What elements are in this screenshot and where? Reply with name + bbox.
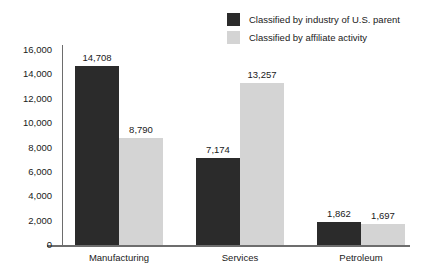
y-axis-tick-label: 10,000 xyxy=(4,118,52,128)
y-axis-tick-label: 8,000 xyxy=(4,143,52,153)
bar-chart: Classified by industry of U.S. parentCla… xyxy=(0,0,441,276)
bar-value-label: 1,697 xyxy=(353,210,413,221)
bar xyxy=(361,224,405,245)
bar xyxy=(119,138,163,245)
y-axis-tick-label: 12,000 xyxy=(4,94,52,104)
y-axis-tick-label: 4,000 xyxy=(4,191,52,201)
y-axis-tick-label: 0 xyxy=(4,240,52,250)
y-axis-tick-label: 6,000 xyxy=(4,167,52,177)
x-axis-category-label: Services xyxy=(170,252,310,264)
x-axis-line xyxy=(47,245,410,247)
bar-value-label: 8,790 xyxy=(111,124,171,135)
bar-value-label: 13,257 xyxy=(232,69,292,80)
bar xyxy=(75,66,119,245)
bar xyxy=(240,83,284,245)
y-axis-tick-label: 16,000 xyxy=(4,45,52,55)
y-axis-tick-label: 2,000 xyxy=(4,216,52,226)
x-axis-category-label: Manufacturing xyxy=(49,252,189,264)
bar-value-label: 7,174 xyxy=(188,144,248,155)
bar-value-label: 14,708 xyxy=(67,52,127,63)
plot-area: 02,0004,0006,0008,00010,00012,00014,0001… xyxy=(0,0,441,276)
x-axis-category-label: Petroleum xyxy=(291,252,431,264)
bar xyxy=(317,222,361,245)
bar xyxy=(196,158,240,245)
y-axis-tick-label: 14,000 xyxy=(4,69,52,79)
y-axis-line xyxy=(62,45,63,246)
